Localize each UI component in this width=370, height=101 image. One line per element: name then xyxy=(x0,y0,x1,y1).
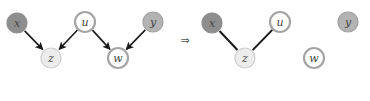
left-edge-u-z xyxy=(59,30,77,49)
node-label: z xyxy=(47,52,54,65)
right-node-y: y xyxy=(338,12,358,32)
left-node-z: z xyxy=(41,48,61,68)
node-label: x xyxy=(209,17,216,30)
graph-transformation-diagram: xuyzw ⇒ xuyzw xyxy=(0,0,370,101)
node-label: u xyxy=(276,16,283,29)
left-edge-u-w xyxy=(92,30,109,49)
left-node-x: x xyxy=(7,13,27,33)
node-label: z xyxy=(241,52,248,65)
left-edge-x-z xyxy=(25,31,43,50)
left-edge-y-w xyxy=(126,30,145,50)
node-label: u xyxy=(81,16,88,29)
left-node-w: w xyxy=(108,48,128,68)
implies-arrow-icon: ⇒ xyxy=(180,34,189,47)
node-label: x xyxy=(14,17,21,30)
right-node-w: w xyxy=(304,48,324,68)
node-label: y xyxy=(344,16,352,29)
right-node-z: z xyxy=(235,48,255,68)
right-undirected-graph: xuyzw xyxy=(202,12,358,68)
left-node-u: u xyxy=(75,12,95,32)
right-node-u: u xyxy=(270,12,290,32)
node-label: w xyxy=(309,52,319,65)
left-directed-graph: xuyzw xyxy=(7,12,163,68)
right-edge-x-z xyxy=(220,31,238,50)
right-node-x: x xyxy=(202,13,222,33)
node-label: y xyxy=(149,16,157,29)
node-label: w xyxy=(113,52,123,65)
right-edge-u-z xyxy=(253,30,273,50)
left-node-y: y xyxy=(143,12,163,32)
